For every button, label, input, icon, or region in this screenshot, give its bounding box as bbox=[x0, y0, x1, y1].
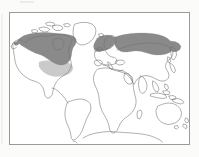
coastline-indonesia-2 bbox=[163, 91, 170, 95]
coastline-india bbox=[139, 76, 148, 94]
map-frame: Primary range Secondary range bbox=[9, 12, 190, 145]
coastline-australia bbox=[156, 103, 182, 125]
coastline-arctic-islands-3 bbox=[46, 22, 55, 26]
coastline-arctic-islands-4 bbox=[32, 30, 38, 34]
coastline-central-america bbox=[52, 88, 68, 103]
coastline-arctic-islands-5 bbox=[64, 24, 71, 28]
coastline-iberia bbox=[95, 60, 103, 66]
coastline-japan bbox=[170, 63, 176, 73]
coastline-new-zealand-1 bbox=[185, 118, 189, 123]
coastline-madagascar bbox=[137, 110, 142, 119]
coastline-tasmania bbox=[175, 126, 179, 130]
coastline-philippines bbox=[165, 84, 169, 90]
coastline-europe bbox=[95, 49, 118, 65]
scan-artifact-speck bbox=[20, 1, 34, 3]
coastline-black-sea bbox=[116, 60, 125, 65]
coastline-africa bbox=[94, 68, 137, 133]
coastline-antarctica bbox=[83, 132, 163, 143]
range-area-north-america bbox=[14, 33, 77, 66]
scan-artifact-edge bbox=[1, 14, 3, 144]
range-area-siberia bbox=[113, 33, 174, 55]
coastline-southeast-asia bbox=[153, 81, 160, 92]
coastline-arctic-islands-2 bbox=[53, 25, 63, 31]
coastline-tierra-del-fuego bbox=[73, 141, 77, 143]
coastline-new-zealand-2 bbox=[183, 124, 187, 129]
range-area-northern-europe bbox=[94, 35, 116, 52]
figure-root: Primary range Secondary range bbox=[0, 0, 199, 157]
coastline-south-america bbox=[65, 99, 91, 140]
coastline-arctic-islands-1 bbox=[39, 27, 50, 32]
world-map bbox=[10, 13, 189, 144]
